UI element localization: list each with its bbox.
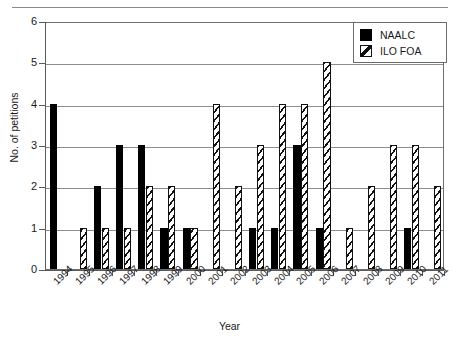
legend-item-naalc: NAALC xyxy=(360,27,441,43)
bar-naalc-2004 xyxy=(271,228,278,269)
y-axis-spine xyxy=(45,22,46,271)
y-tick-label-1: 1 xyxy=(17,223,37,234)
y-tick-5 xyxy=(39,63,45,64)
bar-ilo-foa-1995 xyxy=(80,228,87,269)
bar-ilo-foa-1998 xyxy=(146,186,153,269)
bar-ilo-foa-1999 xyxy=(168,186,175,269)
gridline-y-5 xyxy=(46,64,443,65)
legend-swatch-ilo-foa-icon xyxy=(360,45,372,57)
x-axis-title: Year xyxy=(0,321,459,332)
y-tick-label-5: 5 xyxy=(17,57,37,68)
bar-ilo-foa-2005 xyxy=(301,104,308,269)
bar-naalc-1999 xyxy=(160,228,167,269)
y-tick-4 xyxy=(39,105,45,106)
legend-item-ilo-foa: ILO FOA xyxy=(360,43,441,59)
y-tick-label-2: 2 xyxy=(17,181,37,192)
bar-naalc-2006 xyxy=(316,228,323,269)
bar-naalc-1998 xyxy=(138,145,145,269)
bar-ilo-foa-2010 xyxy=(412,145,419,269)
gridline-y-4 xyxy=(46,106,443,107)
legend-label-ilo-foa: ILO FOA xyxy=(380,45,421,57)
gridline-y-2 xyxy=(46,188,443,189)
bar-naalc-1994 xyxy=(50,104,57,269)
bar-naalc-1997 xyxy=(116,145,123,269)
top-divider-rule xyxy=(12,7,448,8)
bar-naalc-2010 xyxy=(404,228,411,269)
y-tick-label-4: 4 xyxy=(17,99,37,110)
chart-legend: NAALC ILO FOA xyxy=(353,22,447,63)
y-tick-1 xyxy=(39,229,45,230)
bar-ilo-foa-2004 xyxy=(279,104,286,269)
legend-label-naalc: NAALC xyxy=(380,29,415,41)
y-tick-label-6: 6 xyxy=(17,16,37,27)
y-tick-label-0: 0 xyxy=(17,264,37,275)
y-tick-2 xyxy=(39,187,45,188)
bar-naalc-2003 xyxy=(249,228,256,269)
bar-ilo-foa-2011 xyxy=(434,186,441,269)
bar-ilo-foa-2009 xyxy=(390,145,397,269)
bar-ilo-foa-2007 xyxy=(346,228,353,269)
bar-ilo-foa-2001 xyxy=(213,104,220,269)
y-axis-title: No. of petitions xyxy=(9,68,20,188)
bar-ilo-foa-1996 xyxy=(102,228,109,269)
y-tick-label-3: 3 xyxy=(17,140,37,151)
bar-ilo-foa-2000 xyxy=(190,228,197,269)
y-tick-3 xyxy=(39,146,45,147)
bar-naalc-1996 xyxy=(94,186,101,269)
bar-ilo-foa-2003 xyxy=(257,145,264,269)
bar-ilo-foa-2006 xyxy=(323,62,330,269)
legend-swatch-naalc-icon xyxy=(360,29,372,41)
bar-naalc-2000 xyxy=(183,228,190,269)
gridline-y-3 xyxy=(46,147,443,148)
bar-chart-figure: 0123456 No. of petitions 199419951996199… xyxy=(0,0,459,341)
bar-naalc-2005 xyxy=(293,145,300,269)
bar-ilo-foa-2002 xyxy=(235,186,242,269)
bar-ilo-foa-2008 xyxy=(368,186,375,269)
bar-ilo-foa-1997 xyxy=(124,228,131,269)
y-tick-6 xyxy=(39,22,45,23)
